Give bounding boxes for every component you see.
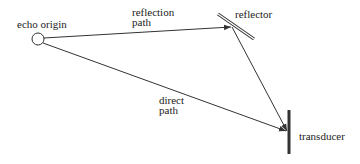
direct-path-label-line2: path — [159, 104, 178, 116]
echo-diagram: echo origin reflection path reflector di… — [0, 0, 360, 164]
transducer-label: transducer — [299, 130, 345, 142]
echo-origin-label: echo origin — [17, 18, 67, 30]
reflected-path-edge — [232, 27, 287, 131]
reflection-path-label-line2: path — [132, 16, 151, 28]
echo-origin-node — [32, 33, 44, 45]
direct-path-edge — [43, 43, 286, 131]
reflector-label: reflector — [235, 8, 273, 20]
reflection-path-edge — [44, 27, 231, 38]
